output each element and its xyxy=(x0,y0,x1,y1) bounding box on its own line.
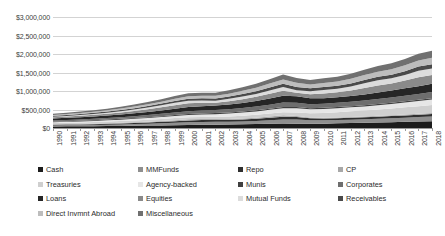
legend-row: CashMMFundsRepoCP xyxy=(38,166,438,181)
legend-item[interactable]: MMFunds xyxy=(138,166,179,173)
x-tick-label: 1991 xyxy=(70,131,77,146)
x-tick-label: 2017 xyxy=(421,131,428,146)
y-tick-label: $2,500,000 xyxy=(16,32,50,39)
chart-legend: CashMMFundsRepoCPTreasuriesAgency-backed… xyxy=(0,166,445,236)
stacked-area-chart: $3,000,000$2,500,000$2,000,000$1,500,000… xyxy=(0,0,445,236)
legend-row: LoansEquitiesMutual FundsReceivables xyxy=(38,195,438,210)
y-tick-label: $2,000,000 xyxy=(16,51,50,58)
x-tick xyxy=(432,128,433,131)
legend-row: Direct Invmnt AbroadMiscellaneous xyxy=(38,210,438,225)
legend-item[interactable]: Mutual Funds xyxy=(238,195,291,202)
x-tick-label: 2016 xyxy=(408,131,415,146)
x-tick-label: 2000 xyxy=(191,131,198,146)
x-tick-label: 2002 xyxy=(218,131,225,146)
legend-swatch-icon xyxy=(38,182,43,187)
plot-area: $3,000,000$2,500,000$2,000,000$1,500,000… xyxy=(0,0,445,168)
legend-label: Repo xyxy=(246,166,264,173)
x-tick-label: 2004 xyxy=(246,131,253,146)
x-tick-label: 2015 xyxy=(394,131,401,146)
legend-label: Receivables xyxy=(346,195,386,202)
x-tick-label: 1994 xyxy=(110,131,117,146)
y-tick-label: $0 xyxy=(42,125,50,132)
x-tick-label: 1997 xyxy=(151,131,158,146)
x-axis-labels: 1990199119921993199419951996199719981999… xyxy=(53,131,432,165)
legend-label: Agency-backed xyxy=(146,181,197,188)
x-tick-label: 2001 xyxy=(205,131,212,146)
legend-swatch-icon xyxy=(238,182,243,187)
x-tick-label: 2012 xyxy=(354,131,361,146)
x-tick-label: 2006 xyxy=(273,131,280,146)
legend-swatch-icon xyxy=(238,196,243,201)
x-tick-label: 2008 xyxy=(300,131,307,146)
legend-item[interactable]: Miscellaneous xyxy=(138,210,193,217)
x-tick-label: 2014 xyxy=(381,131,388,146)
y-tick-label: $3,000,000 xyxy=(16,14,50,21)
legend-label: Munis xyxy=(246,181,266,188)
legend-label: CP xyxy=(346,166,356,173)
legend-item[interactable]: Cash xyxy=(38,166,63,173)
legend-item[interactable]: Corporates xyxy=(338,181,383,188)
x-tick-label: 1990 xyxy=(56,131,63,146)
legend-swatch-icon xyxy=(338,182,343,187)
legend-swatch-icon xyxy=(338,167,343,172)
legend-item[interactable]: Equities xyxy=(138,195,172,202)
x-tick-label: 2011 xyxy=(340,131,347,145)
x-tick-label: 1999 xyxy=(178,131,185,146)
legend-label: Equities xyxy=(146,195,172,202)
x-tick-label: 2009 xyxy=(313,131,320,146)
legend-swatch-icon xyxy=(238,167,243,172)
legend-label: Mutual Funds xyxy=(246,195,291,202)
x-tick-label: 1992 xyxy=(83,131,90,146)
legend-item[interactable]: Agency-backed xyxy=(138,181,197,188)
x-tick-label: 1996 xyxy=(137,131,144,146)
legend-item[interactable]: Direct Invmnt Abroad xyxy=(38,210,115,217)
legend-swatch-icon xyxy=(138,182,143,187)
legend-swatch-icon xyxy=(38,211,43,216)
y-tick-label: $1,500,000 xyxy=(16,69,50,76)
series-svg xyxy=(53,17,432,128)
legend-item[interactable]: Treasuries xyxy=(38,181,81,188)
legend-label: Corporates xyxy=(346,181,383,188)
x-tick-label: 2005 xyxy=(259,131,266,146)
legend-label: Loans xyxy=(46,195,66,202)
legend-swatch-icon xyxy=(138,196,143,201)
x-tick-label: 2010 xyxy=(327,131,334,146)
legend-swatch-icon xyxy=(38,196,43,201)
legend-swatch-icon xyxy=(38,167,43,172)
x-tick-label: 2013 xyxy=(367,131,374,146)
y-tick-label: $1,000,000 xyxy=(16,88,50,95)
legend-swatch-icon xyxy=(338,196,343,201)
series-container xyxy=(53,17,432,128)
legend-label: Treasuries xyxy=(46,181,81,188)
x-tick-label: 1993 xyxy=(97,131,104,146)
x-tick-label: 2018 xyxy=(435,131,442,146)
legend-item[interactable]: Repo xyxy=(238,166,264,173)
legend-label: Direct Invmnt Abroad xyxy=(46,210,115,217)
x-tick-label: 2003 xyxy=(232,131,239,146)
y-tick-label: $500,000 xyxy=(22,106,50,113)
legend-item[interactable]: Loans xyxy=(38,195,66,202)
legend-label: Cash xyxy=(46,166,63,173)
legend-label: MMFunds xyxy=(146,166,179,173)
legend-swatch-icon xyxy=(138,167,143,172)
x-tick-label: 1998 xyxy=(164,131,171,146)
legend-item[interactable]: CP xyxy=(338,166,356,173)
x-tick-label: 1995 xyxy=(124,131,131,146)
legend-item[interactable]: Receivables xyxy=(338,195,386,202)
legend-item[interactable]: Munis xyxy=(238,181,266,188)
legend-label: Miscellaneous xyxy=(146,210,193,217)
x-tick-label: 2007 xyxy=(286,131,293,146)
y-axis-labels: $3,000,000$2,500,000$2,000,000$1,500,000… xyxy=(0,0,50,168)
legend-swatch-icon xyxy=(138,211,143,216)
